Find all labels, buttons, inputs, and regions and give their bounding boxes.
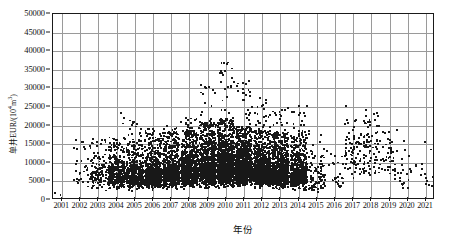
x-axis-tick-mark: [61, 197, 62, 201]
x-axis-tick-label: 2018: [363, 201, 378, 210]
scatter-point: [219, 152, 221, 154]
scatter-point: [136, 142, 138, 144]
scatter-point: [264, 150, 266, 152]
scatter-point: [188, 181, 190, 183]
scatter-point: [108, 146, 110, 148]
scatter-point: [151, 167, 153, 169]
y-axis-tick-mark: [46, 180, 50, 181]
scatter-point: [213, 174, 215, 176]
scatter-point: [201, 138, 203, 140]
scatter-point: [236, 173, 238, 175]
scatter-point: [239, 132, 241, 134]
x-axis-tick-mark: [389, 197, 390, 201]
x-axis-tick-mark: [261, 197, 262, 201]
scatter-point: [347, 168, 349, 170]
scatter-point: [374, 119, 376, 121]
scatter-point: [267, 175, 269, 177]
x-axis-tick-label: 2009: [199, 201, 214, 210]
scatter-point: [218, 187, 220, 189]
scatter-point: [334, 155, 336, 157]
scatter-point: [346, 119, 348, 121]
scatter-point: [141, 186, 143, 188]
scatter-point: [232, 183, 234, 185]
scatter-point: [178, 138, 180, 140]
scatter-point: [284, 109, 286, 111]
scatter-point: [291, 111, 293, 113]
scatter-point: [192, 135, 194, 137]
scatter-point: [146, 174, 148, 176]
scatter-point: [157, 186, 159, 188]
scatter-point: [232, 117, 234, 119]
scatter-point: [313, 172, 315, 174]
scatter-point: [203, 159, 205, 161]
scatter-point: [160, 147, 162, 149]
scatter-point: [248, 145, 250, 147]
scatter-point: [250, 157, 252, 159]
scatter-point: [81, 178, 83, 180]
scatter-point: [227, 150, 229, 152]
x-axis-tick-mark: [152, 197, 153, 201]
scatter-point: [114, 149, 116, 151]
scatter-point: [121, 177, 123, 179]
scatter-point: [211, 179, 213, 181]
scatter-point: [225, 145, 227, 147]
x-axis-tick-label: 2008: [181, 201, 196, 210]
scatter-point: [299, 149, 301, 151]
scatter-point: [226, 96, 228, 98]
scatter-point: [103, 184, 105, 186]
scatter-point: [248, 80, 250, 82]
scatter-point: [227, 62, 229, 64]
scatter-point: [94, 155, 96, 157]
scatter-point: [196, 154, 198, 156]
scatter-point: [220, 155, 222, 157]
scatter-point: [217, 185, 219, 187]
scatter-point: [348, 132, 350, 134]
scatter-point: [126, 182, 128, 184]
scatter-point: [323, 148, 325, 150]
gridline-horizontal: [53, 70, 433, 71]
scatter-point: [245, 135, 247, 137]
scatter-point: [303, 156, 305, 158]
scatter-point: [145, 177, 147, 179]
scatter-point: [154, 156, 156, 158]
scatter-point: [178, 149, 180, 151]
scatter-point: [227, 185, 229, 187]
x-axis-tick-mark: [207, 197, 208, 201]
scatter-point: [220, 70, 222, 72]
scatter-point: [303, 112, 305, 114]
scatter-point: [117, 159, 119, 161]
scatter-point: [420, 174, 422, 176]
scatter-point: [135, 182, 137, 184]
scatter-point: [380, 159, 382, 161]
scatter-point: [86, 169, 88, 171]
scatter-point: [228, 122, 230, 124]
scatter-point: [246, 180, 248, 182]
scatter-point: [246, 162, 248, 164]
scatter-point: [103, 160, 105, 162]
scatter-point: [228, 170, 230, 172]
scatter-point: [296, 169, 298, 171]
scatter-point: [261, 136, 263, 138]
scatter-point: [145, 163, 147, 165]
scatter-point: [92, 185, 94, 187]
y-axis-tick-mark: [46, 13, 50, 14]
scatter-point: [111, 162, 113, 164]
scatter-point: [243, 144, 245, 146]
scatter-point: [152, 151, 154, 153]
scatter-point: [165, 185, 167, 187]
x-axis-tick-label: 2014: [290, 201, 305, 210]
scatter-point: [113, 186, 115, 188]
scatter-point: [92, 162, 94, 164]
scatter-point: [212, 133, 214, 135]
y-axis-tick-mark: [46, 68, 50, 69]
x-axis-tick-label: 2007: [163, 201, 178, 210]
scatter-point: [225, 186, 227, 188]
scatter-point: [242, 88, 244, 90]
scatter-point: [201, 147, 203, 149]
scatter-point: [255, 130, 257, 132]
scatter-point: [109, 178, 111, 180]
scatter-point: [236, 131, 238, 133]
scatter-point: [151, 178, 153, 180]
scatter-point: [201, 111, 203, 113]
x-axis-tick-mark: [116, 197, 117, 201]
